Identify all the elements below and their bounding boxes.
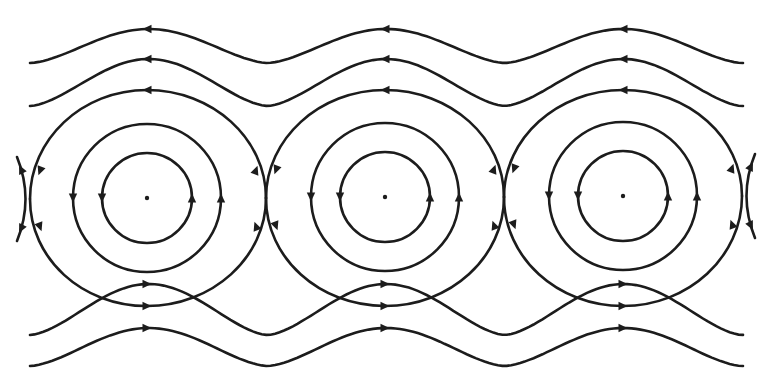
arrowhead-icon [143, 25, 152, 33]
arrowhead-icon [381, 25, 390, 33]
arrowhead-icon [336, 193, 344, 202]
arrowhead-icon [619, 86, 628, 94]
arrowhead-icon [381, 86, 390, 94]
arrowhead-icon [489, 165, 497, 175]
center-points [145, 194, 625, 200]
arrowhead-icon [619, 302, 628, 310]
arrowhead-icon [188, 194, 196, 203]
arrowhead-icon [143, 302, 152, 310]
arrowhead-icon [619, 25, 628, 33]
separatrix-top-arc [30, 90, 266, 199]
right-edge-saddle-stub [745, 154, 755, 238]
arrowhead-icon [727, 164, 735, 174]
separatrix-top-arc [266, 90, 504, 198]
arrowhead-icon [143, 324, 152, 332]
arrowhead-icon [307, 193, 315, 202]
center-point-dot [383, 195, 387, 199]
arrowhead-icon [545, 192, 553, 201]
left-edge-saddle-stub [17, 157, 27, 241]
arrowhead-icon [217, 194, 225, 203]
arrowhead-icon [619, 324, 628, 332]
arrowhead-icon [381, 324, 390, 332]
lower-streamline-2 [30, 328, 743, 366]
upper-streamline-2 [30, 59, 743, 106]
phase-portrait-diagram [0, 0, 776, 383]
arrowhead-icon [98, 194, 106, 203]
lower-open-streamlines [30, 280, 743, 366]
arrowhead-icon [574, 192, 582, 201]
arrowhead-icon [381, 280, 390, 288]
separatrix-bottom-arc [30, 198, 266, 306]
arrowhead-icon [619, 280, 628, 288]
arrowhead-icon [381, 302, 390, 310]
arrowhead-icon [619, 55, 628, 63]
arrowhead-icon [143, 55, 152, 63]
center-point-dot [145, 196, 149, 200]
arrowhead-icon [274, 164, 282, 174]
separatrix-top-arc [504, 90, 742, 197]
separatrix-bottom-arc [504, 196, 742, 306]
center-point-dot [621, 194, 625, 198]
arrowhead-icon [251, 166, 259, 176]
arrowhead-icon [143, 280, 152, 288]
arrowhead-icon [512, 163, 520, 173]
arrowhead-icon [69, 194, 77, 203]
arrowhead-icon [664, 192, 672, 201]
arrowhead-icon [693, 192, 701, 201]
arrowhead-icon [143, 86, 152, 94]
arrowhead-icon [455, 193, 463, 202]
separatrix-bottom-arc [266, 197, 504, 306]
arrowhead-icon [426, 193, 434, 202]
upper-open-streamlines [30, 25, 743, 106]
arrowhead-icon [381, 55, 390, 63]
arrowhead-icon [38, 165, 46, 175]
diagram-canvas [0, 0, 776, 383]
